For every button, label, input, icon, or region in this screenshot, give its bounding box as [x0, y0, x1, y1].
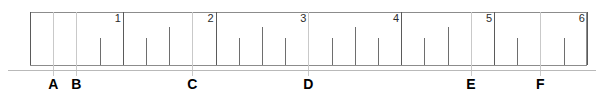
point-label-F: F — [536, 76, 545, 92]
ruler-tick-minor — [378, 38, 379, 65]
point-label-B: B — [71, 76, 81, 92]
ruler-tick-minor — [146, 38, 147, 65]
point-label-D: D — [303, 76, 313, 92]
ruler-tick-minor — [564, 38, 565, 65]
axis-tick-label-1: 1 — [115, 13, 123, 24]
axis-tick-label-2: 2 — [207, 13, 215, 24]
ruler-tick-major — [30, 12, 31, 65]
leader-line-F — [540, 12, 541, 76]
ruler-tick-major — [494, 12, 495, 65]
ruler-tick-major — [587, 12, 588, 65]
ruler-tick-major — [401, 12, 402, 65]
leader-line-B — [76, 12, 77, 76]
ruler-tick-medium — [262, 27, 263, 65]
ruler-figure: 123456 ABCDEF — [0, 0, 608, 104]
axis-tick-label-5: 5 — [486, 13, 494, 24]
ruler-tick-minor — [239, 38, 240, 65]
baseline-rule — [8, 70, 596, 71]
ruler-tick-major — [123, 12, 124, 65]
point-label-C: C — [187, 76, 197, 92]
ruler-tick-minor — [424, 38, 425, 65]
point-label-A: A — [48, 76, 58, 92]
leader-line-E — [471, 12, 472, 76]
leader-line-C — [192, 12, 193, 76]
axis-tick-label-4: 4 — [393, 13, 401, 24]
leader-line-D — [308, 12, 309, 76]
axis-tick-label-6: 6 — [579, 13, 587, 24]
axis-tick-label-3: 3 — [300, 13, 308, 24]
ruler-tick-medium — [355, 27, 356, 65]
ruler-tick-major — [216, 12, 217, 65]
ruler-tick-minor — [285, 38, 286, 65]
ruler-tick-medium — [169, 27, 170, 65]
point-label-E: E — [466, 76, 475, 92]
ruler-tick-minor — [100, 38, 101, 65]
ruler-tick-minor — [332, 38, 333, 65]
leader-line-A — [53, 12, 54, 76]
ruler-tick-minor — [517, 38, 518, 65]
ruler-tick-medium — [448, 27, 449, 65]
